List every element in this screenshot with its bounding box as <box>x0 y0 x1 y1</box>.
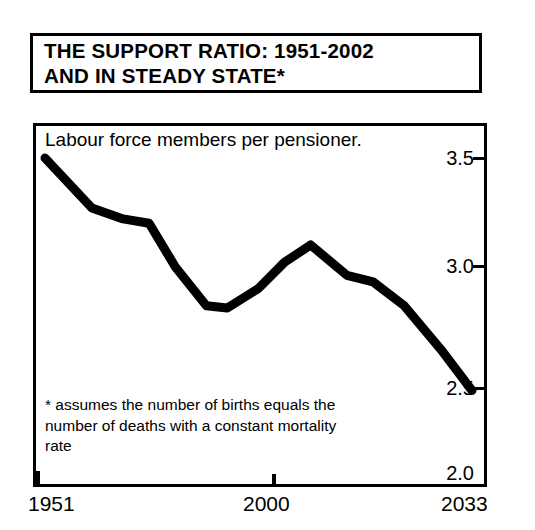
title-line-2: AND IN STEADY STATE* <box>44 63 477 88</box>
x-axis-label-2000: 2000 <box>243 492 290 515</box>
title-box: THE SUPPORT RATIO: 1951-2002 AND IN STEA… <box>30 33 482 93</box>
data-line-support-ratio <box>36 126 484 484</box>
x-axis-label-2033: 2033 <box>441 492 488 515</box>
x-axis-tick-2000 <box>272 474 276 484</box>
x-axis-tick-1951 <box>36 471 40 484</box>
title-line-1: THE SUPPORT RATIO: 1951-2002 <box>44 38 477 63</box>
plot-frame: Labour force members per pensioner. 3.5 … <box>33 123 487 487</box>
plot-area: Labour force members per pensioner. 3.5 … <box>36 126 484 484</box>
x-axis-label-1951: 1951 <box>28 492 75 515</box>
chart-page: THE SUPPORT RATIO: 1951-2002 AND IN STEA… <box>0 0 535 530</box>
